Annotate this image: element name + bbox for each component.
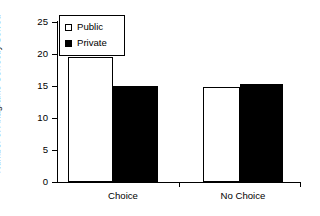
- y-tick-20: [52, 54, 57, 55]
- y-tick-15: [52, 86, 57, 87]
- legend-label-private: Private: [77, 38, 107, 48]
- y-tick-label-25: 25: [24, 17, 48, 27]
- y-tick-label-15: 15: [24, 81, 48, 91]
- bar-choice-private: [113, 86, 158, 182]
- x-tick-right-end: [300, 183, 301, 187]
- y-tick-25: [52, 22, 57, 23]
- legend-item-private: Private: [65, 35, 120, 51]
- filled-square-icon: [65, 40, 72, 47]
- y-tick-label-5: 5: [24, 145, 48, 155]
- y-tick-label-0: 0: [24, 177, 48, 187]
- bar-choice-public: [68, 57, 113, 182]
- y-tick-label-20: 20: [24, 49, 48, 59]
- legend-item-public: Public: [65, 19, 120, 35]
- open-square-icon: [65, 24, 72, 31]
- y-axis-title-text: Number of Anagrams Correctly Solved: [0, 6, 2, 182]
- bar-nochoice-public: [203, 87, 240, 182]
- legend: Public Private: [59, 15, 125, 56]
- y-tick-10: [52, 118, 57, 119]
- bar-chart-figure: Number of Anagrams Correctly Solved 25 2…: [0, 0, 320, 216]
- y-tick-0: [52, 182, 57, 183]
- x-tick-separator: [179, 183, 180, 187]
- x-category-label-no-choice: No Choice: [198, 190, 288, 202]
- bar-nochoice-private: [240, 84, 283, 182]
- y-tick-label-10: 10: [24, 113, 48, 123]
- x-category-label-choice: Choice: [78, 190, 168, 202]
- legend-label-public: Public: [77, 22, 103, 32]
- y-axis-line: [57, 21, 58, 183]
- y-tick-5: [52, 150, 57, 151]
